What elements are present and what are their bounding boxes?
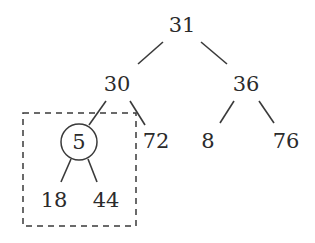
node-left: 30	[104, 74, 131, 95]
edge-31-36	[201, 42, 227, 64]
edge-36-76	[259, 101, 274, 123]
edge-36-8	[220, 101, 234, 123]
edge-31-30	[138, 42, 163, 64]
node-root: 31	[169, 15, 196, 36]
node-right-left: 8	[201, 131, 214, 152]
edge-30-72	[130, 101, 145, 125]
node-right: 36	[233, 74, 260, 95]
node-left-right: 72	[143, 131, 170, 152]
node-left-left-left: 18	[41, 190, 68, 211]
edge-5-18	[61, 159, 71, 182]
node-left-left-right: 44	[93, 190, 120, 211]
node-left-left: 5	[72, 132, 85, 153]
edge-5-44	[88, 159, 97, 182]
node-right-right: 76	[273, 131, 300, 152]
tree-diagram: 31 30 36 5 72 8 76 18 44	[0, 0, 315, 243]
